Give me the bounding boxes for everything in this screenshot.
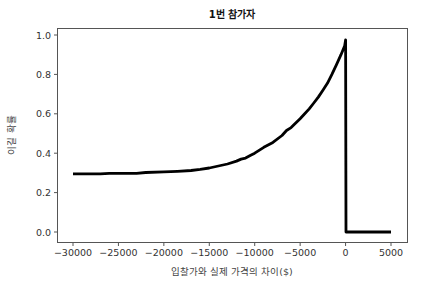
y-tick-label: 0.4	[36, 148, 51, 159]
y-tick-label: 1.0	[36, 30, 51, 41]
y-axis-ticks: 0.00.20.40.60.81.0	[36, 30, 58, 238]
plot-area	[58, 29, 408, 243]
x-tick-label: 5000	[379, 247, 403, 258]
y-tick-label: 0.8	[36, 69, 51, 80]
x-tick-label: −20000	[145, 247, 183, 258]
x-tick-label: −30000	[54, 247, 92, 258]
x-axis-ticks: −30000−25000−20000−15000−10000−500005000	[54, 243, 403, 259]
y-tick-label: 0.0	[36, 227, 51, 238]
x-tick-label: −5000	[284, 247, 316, 258]
y-tick-label: 0.2	[36, 187, 51, 198]
x-tick-label: −15000	[190, 247, 228, 258]
x-axis-label: 입찰가와 실제 가격의 차이($)	[171, 266, 293, 277]
line-chart: 1번 참가자 −30000−25000−20000−15000−10000−50…	[0, 0, 431, 286]
chart-title: 1번 참가자	[209, 8, 256, 20]
x-tick-label: −25000	[99, 247, 137, 258]
x-tick-label: 0	[343, 247, 349, 258]
x-tick-label: −10000	[236, 247, 274, 258]
y-axis-label: 이길 확률	[6, 115, 17, 154]
y-tick-label: 0.6	[36, 108, 51, 119]
